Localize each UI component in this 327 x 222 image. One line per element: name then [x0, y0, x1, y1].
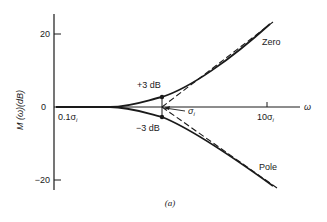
plus3db-point [160, 95, 164, 99]
bode-magnitude-figure: 20 0 −20 M (ω)(dB) ω 0.1σi 10σi σi +3 dB… [0, 0, 327, 222]
y-tick-label-20: 20 [40, 29, 50, 39]
y-tick-label-minus20: −20 [35, 175, 50, 185]
y-axis-title: M (ω)(dB) [15, 90, 25, 130]
minus3db-label: −3 dB [136, 123, 160, 133]
corner-frequency-label: σi [188, 106, 195, 117]
pole-curve [110, 107, 273, 186]
x-axis-title: ω [304, 102, 311, 112]
y-tick-label-0: 0 [41, 102, 46, 112]
pole-curve-label: Pole [259, 162, 277, 172]
zero-curve [56, 24, 270, 107]
zero-curve-label: Zero [262, 37, 281, 47]
plus3db-label: +3 dB [137, 80, 161, 90]
x-tick-label-10sigma: 10σi [257, 112, 275, 123]
figure-caption: (a) [165, 198, 176, 208]
zero-asymptote [162, 22, 273, 107]
minus3db-point [160, 115, 164, 119]
x-tick-label-0.1sigma: 0.1σi [58, 112, 78, 123]
